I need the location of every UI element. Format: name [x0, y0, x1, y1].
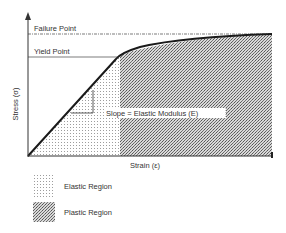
x-axis-label: Strain (ε)	[130, 161, 161, 170]
legend-label-plastic: Plastic Region	[64, 208, 112, 217]
legend-swatch-elastic	[33, 175, 55, 197]
legend-swatch-plastic	[33, 202, 55, 222]
failure-point-label: Failure Point	[34, 24, 77, 33]
legend-label-elastic: Elastic Region	[64, 182, 112, 191]
slope-label: Slope = Elastic Modulus (E)	[106, 109, 199, 118]
x-axis-end-tick	[271, 152, 273, 158]
stress-strain-diagram: Failure Point Yield Point Slope = Elasti…	[0, 0, 286, 233]
plastic-region-fill	[120, 34, 272, 156]
y-axis-label: Stress (σ)	[11, 87, 20, 120]
yield-point-label: Yield Point	[34, 47, 70, 56]
y-axis-arrow-icon	[25, 12, 31, 20]
